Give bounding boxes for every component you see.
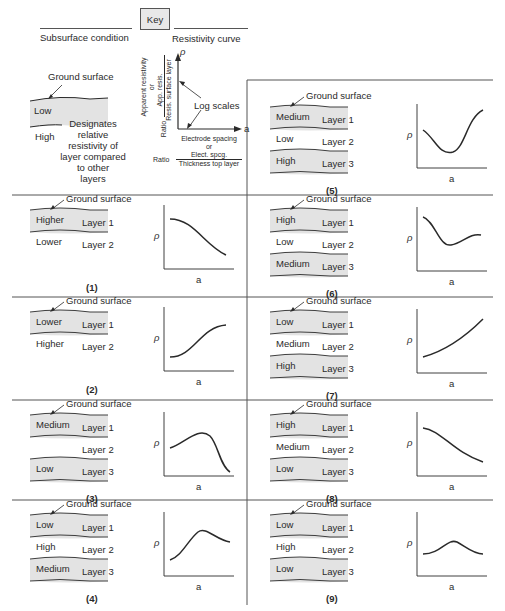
layer-name: Layer 2 (322, 445, 354, 455)
layer-sketch (247, 500, 494, 611)
y-label-ratio-word: Ratio (160, 119, 167, 139)
y-label-or: or (148, 52, 155, 122)
layer-resistivity: Low (276, 134, 293, 144)
key-panel: Ground surface Low High Designates relat… (0, 45, 247, 195)
a-axis-label: a (449, 482, 454, 492)
ground-surface-label: Ground surface (66, 194, 131, 204)
layer-resistivity: Low (276, 317, 293, 327)
layer-name: Layer 3 (322, 467, 354, 477)
a-axis-label: a (196, 582, 201, 592)
layer-sketch (0, 195, 247, 310)
layer-resistivity: Lower (36, 237, 62, 247)
layer-resistivity: Medium (36, 420, 70, 430)
layer-name: Layer 1 (82, 423, 114, 433)
a-axis-label: a (449, 277, 454, 287)
rho-axis-label: ρ (407, 538, 412, 548)
layer-resistivity: Low (276, 520, 293, 530)
layer-sketch (0, 500, 247, 611)
a-axis-label: a (196, 482, 201, 492)
layer-resistivity: Medium (276, 112, 310, 122)
layer-resistivity: High (276, 156, 296, 166)
layer-name: Layer 3 (322, 567, 354, 577)
rho-axis-label: ρ (407, 438, 412, 448)
layer-name: Layer 3 (82, 467, 114, 477)
key-lower-layer-resistivity: High (35, 132, 55, 142)
panel-2: Ground surfaceLowerLayer 1HigherLayer 2ρ… (0, 297, 247, 402)
layer-resistivity: Higher (36, 215, 64, 225)
layer-name: Layer 1 (322, 320, 354, 330)
layer-name: Layer 3 (322, 262, 354, 272)
layer-name: Layer 3 (322, 364, 354, 374)
x-label-ratio-word: Ratio (153, 156, 169, 163)
layer-name: Layer 1 (322, 115, 354, 125)
layer-resistivity: Low (36, 520, 53, 530)
layer-name: Layer 2 (82, 240, 114, 250)
layer-resistivity: Medium (276, 339, 310, 349)
layer-name: Layer 2 (322, 137, 354, 147)
layer-name: Layer 2 (82, 445, 114, 455)
layer-resistivity: Low (36, 464, 53, 474)
panel-7: Ground surfaceLowLayer 1MediumLayer 2Hig… (247, 297, 494, 402)
layer-name: Layer 1 (82, 218, 114, 228)
layer-resistivity: Medium (36, 564, 70, 574)
rho-axis-label: ρ (154, 333, 159, 343)
key-upper-layer-resistivity: Low (34, 106, 51, 116)
panel-number: (2) (86, 385, 98, 395)
panel-5: Ground surfaceMediumLayer 1LowLayer 2Hig… (247, 80, 494, 185)
layer-name: Layer 3 (82, 567, 114, 577)
layer-resistivity: Lower (36, 317, 62, 327)
panel-number: (4) (86, 594, 98, 604)
layer-resistivity: Medium (276, 259, 310, 269)
layer-resistivity: Low (276, 237, 293, 247)
a-axis-label: a (196, 275, 201, 285)
y-label-ratio-den: Resis. surface layer (165, 58, 172, 122)
a-axis-label: a (449, 174, 454, 184)
ground-surface-label: Ground surface (306, 296, 371, 306)
log-scales-label: Log scales (194, 101, 239, 111)
layer-resistivity: Low (276, 564, 293, 574)
rho-axis-label: ρ (407, 130, 412, 140)
layer-name: Layer 1 (82, 320, 114, 330)
layer-name: Layer 1 (322, 218, 354, 228)
key-y-axis-symbol: ρ (180, 47, 185, 57)
y-label-ratio-num: App. resis. (156, 58, 163, 122)
ground-surface-label: Ground surface (66, 296, 131, 306)
rho-axis-label: ρ (154, 538, 159, 548)
layer-sketch (0, 297, 247, 412)
layer-resistivity: High (276, 215, 296, 225)
y-label-apparent-resistivity: Apparent resistivity (140, 52, 147, 122)
ground-surface-label: Ground surface (306, 399, 371, 409)
panel-6: Ground surfaceHighLayer 1LowLayer 2Mediu… (247, 195, 494, 300)
layer-resistivity: High (276, 420, 296, 430)
layer-name: Layer 2 (82, 342, 114, 352)
layer-resistivity: Higher (36, 339, 64, 349)
panel-1: Ground surfaceHigherLayer 1LowerLayer 2ρ… (0, 195, 247, 300)
panel-4: Ground surfaceLowLayer 1HighLayer 2Mediu… (0, 500, 247, 605)
a-axis-label: a (196, 377, 201, 387)
layer-name: Layer 1 (82, 523, 114, 533)
panel-number: (1) (86, 283, 98, 293)
layer-resistivity: Low (276, 464, 293, 474)
layer-resistivity: High (276, 361, 296, 371)
layer-resistivity: Medium (276, 442, 310, 452)
x-axis-labels: Electrode spacing or Elect. spcg. Thickn… (172, 135, 246, 168)
layer-sketch (247, 297, 494, 412)
rho-axis-label: ρ (154, 438, 159, 448)
ground-surface-label: Ground surface (306, 499, 371, 509)
panel-number: (9) (326, 594, 338, 604)
ground-surface-label: Ground surface (306, 194, 371, 204)
layer-name: Layer 1 (322, 423, 354, 433)
a-axis-label: a (449, 582, 454, 592)
layer-name: Layer 2 (82, 545, 114, 555)
rho-axis-label: ρ (154, 231, 159, 241)
rho-axis-label: ρ (407, 335, 412, 345)
layer-name: Layer 3 (322, 159, 354, 169)
panel-9: Ground surfaceLowLayer 1HighLayer 2LowLa… (247, 500, 494, 605)
layer-name: Layer 1 (322, 523, 354, 533)
rho-axis-label: ρ (407, 233, 412, 243)
a-axis-label: a (449, 379, 454, 389)
ground-surface-label: Ground surface (66, 499, 131, 509)
layer-name: Layer 2 (322, 545, 354, 555)
panel-3: Ground surfaceMediumLayer 1Layer 2LowLay… (0, 400, 247, 505)
layer-name: Layer 2 (322, 342, 354, 352)
